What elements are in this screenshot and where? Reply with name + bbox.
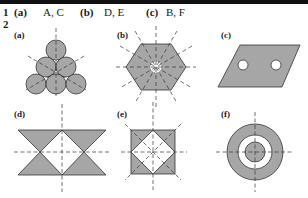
figure-d-bowtie xyxy=(14,104,110,192)
figures-canvas xyxy=(0,0,308,198)
figure-a-circles xyxy=(26,28,86,96)
figure-e-square xyxy=(121,102,187,190)
figure-b-hexagon xyxy=(116,26,196,108)
figure-c-parallelogram xyxy=(218,45,300,87)
figure-f-rings xyxy=(216,112,294,192)
